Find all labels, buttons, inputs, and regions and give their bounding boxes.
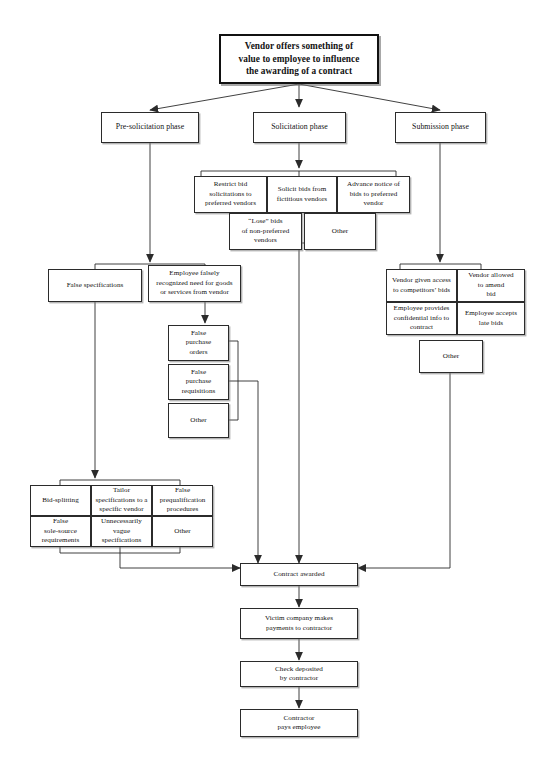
confidential-info-line-2: confidential info to [394,314,450,323]
sole-source-line-1: False [42,517,80,526]
advance-notice-line-2: bids to preferred [347,190,400,199]
vendor-amend-line-3: bid [468,290,513,299]
root-line-2: value to employee to influence [239,53,360,66]
phase-label-submission: Submission phase [412,122,469,132]
node-false-specifications-other: Other [152,516,213,547]
need-recognition-other-label: Other [190,416,206,425]
vague-spec-line-3: specifications [101,536,142,545]
false-prequal-line-2: prequalification [160,496,206,505]
phase-node-submission: Submission phase [395,112,486,143]
node-restrict-bid-solicitations: Restrict bid solicitations to preferred … [194,176,267,213]
node-employee-falsely-recognized-need: Employee falsely recognized need for goo… [148,265,241,302]
confidential-info-line-1: Employee provides [394,304,450,313]
bid-splitting-label: Bid-splitting [42,496,79,505]
lose-bids-line-1: “Lose” bids [242,217,289,226]
node-solicitation-other: Other [304,213,376,250]
restrict-bid-line-3: preferred vendors [205,199,256,208]
vendor-amend-line-2: to amend [468,281,513,290]
node-false-purchase-orders: False purchase orders [168,325,229,361]
victim-payments-line-2: payments to contractor [265,624,333,633]
node-false-prequalification: False prequalification procedures [152,485,213,516]
late-bids-line-2: late bids [465,319,517,328]
node-submission-other: Other [419,340,483,373]
node-lose-bids-non-preferred: “Lose” bids of non-preferred vendors [229,213,302,250]
false-prequal-line-3: procedures [160,505,206,514]
vendor-access-line-2: to competitors’ bids [392,286,451,295]
node-advance-notice-of-bids: Advance notice of bids to preferred vend… [337,176,410,213]
phase-node-solicitation: Solicitation phase [253,112,346,143]
restrict-bid-line-2: solicitations to [205,190,256,199]
root-line-1: Vendor offers something of [239,40,360,53]
lose-bids-line-3: vendors [242,236,289,245]
employee-need-line-3: or services from vendor [156,288,232,297]
node-vendor-allowed-amend: Vendor allowed to amend bid [457,269,525,302]
flowchart-page: Vendor offers something of value to empl… [0,0,551,766]
false-po-line-3: orders [186,348,212,357]
node-false-sole-source: False sole-source requirements [30,516,91,547]
false-pr-line-3: requisitions [182,387,216,396]
solicitation-other-label: Other [332,227,348,236]
tailor-spec-line-2: specifications to a [95,496,147,505]
node-unnecessarily-vague-specifications: Unnecessarily vague specifications [91,516,152,547]
false-pr-line-2: purchase [182,377,216,386]
tailor-spec-line-3: specific vendor [95,505,147,514]
late-bids-line-1: Employee accepts [465,309,517,318]
phase-label-pre-solicitation: Pre-solicitation phase [116,122,184,132]
vague-spec-line-2: vague [101,527,142,536]
advance-notice-line-3: vendor [347,199,400,208]
node-contract-awarded: Contract awarded [240,563,358,586]
submission-other-label: Other [443,352,459,361]
root-line-3: the awarding of a contract [239,65,360,78]
tailor-spec-line-1: Tailor [95,486,147,495]
node-contractor-pays-employee: Contractor pays employee [240,709,358,737]
false-spec-other-label: Other [174,527,190,536]
false-po-line-2: purchase [186,338,212,347]
false-pr-line-1: False [182,368,216,377]
lose-bids-line-2: of non-preferred [242,227,289,236]
false-specifications-label: False specifications [67,281,124,290]
contractor-pays-line-2: pays employee [277,723,320,732]
employee-need-line-1: Employee falsely [156,269,232,278]
node-solicit-fictitious-bids: Solicit bids from fictitious vendors [267,176,337,213]
employee-need-line-2: recognized need for goods [156,279,232,288]
contractor-pays-line-1: Contractor [277,714,320,723]
restrict-bid-line-1: Restrict bid [205,180,256,189]
vendor-access-line-1: Vendor given access [392,276,451,285]
victim-payments-line-1: Victim company makes [265,614,333,623]
solicit-fictitious-line-1: Solicit bids from [277,185,327,194]
node-vendor-given-access: Vendor given access to competitors’ bids [386,269,457,302]
node-need-recognition-other: Other [168,403,229,438]
root-node-vendor-offers: Vendor offers something of value to empl… [219,34,379,84]
false-prequal-line-1: False [160,486,206,495]
confidential-info-line-3: contract [394,323,450,332]
sole-source-line-2: sole-source [42,527,80,536]
solicit-fictitious-line-2: fictitious vendors [277,195,327,204]
node-bid-splitting: Bid-splitting [30,485,91,516]
check-deposited-line-2: by contractor [275,674,323,683]
node-victim-company-payments: Victim company makes payments to contrac… [240,608,358,639]
node-employee-accepts-late-bids: Employee accepts late bids [457,302,525,335]
phase-node-pre-solicitation: Pre-solicitation phase [101,112,199,143]
node-false-purchase-requisitions: False purchase requisitions [168,364,229,400]
node-employee-provides-confidential-info: Employee provides confidential info to c… [386,302,457,335]
advance-notice-line-1: Advance notice of [347,180,400,189]
vendor-amend-line-1: Vendor allowed [468,271,513,280]
contract-awarded-label: Contract awarded [273,570,324,579]
node-tailor-specifications: Tailor specifications to a specific vend… [91,485,152,516]
check-deposited-line-1: Check deposited [275,665,323,674]
node-false-specifications: False specifications [48,269,142,302]
false-po-line-1: False [186,329,212,338]
node-check-deposited: Check deposited by contractor [240,661,358,687]
sole-source-line-3: requirements [42,536,80,545]
vague-spec-line-1: Unnecessarily [101,517,142,526]
phase-label-solicitation: Solicitation phase [271,122,328,132]
